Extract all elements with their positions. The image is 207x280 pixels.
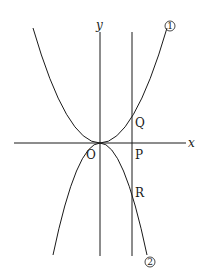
curve-2-marker-icon: 2	[145, 257, 155, 267]
curve-2-marker-text: 2	[147, 257, 153, 267]
point-r-label: R	[135, 186, 145, 200]
origin-label: O	[86, 148, 96, 162]
curve-1-marker-icon: 1	[165, 21, 175, 31]
point-p-label: P	[135, 148, 143, 162]
point-q-label: Q	[135, 116, 145, 130]
x-axis-label: x	[188, 136, 195, 150]
graph-canvas: y x O Q P R 1 2	[0, 0, 207, 280]
curve-1-marker-text: 1	[167, 21, 173, 31]
y-axis-label: y	[95, 18, 103, 32]
